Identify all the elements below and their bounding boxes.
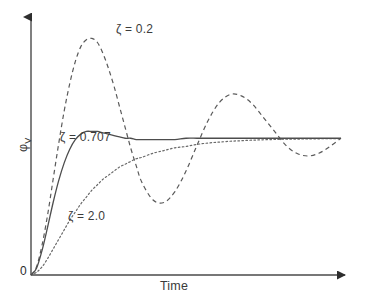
curve-zeta-2-0	[31, 139, 341, 275]
y-axis-label-symbol: φ	[16, 144, 30, 152]
y-axis-label-subscript: V	[23, 137, 33, 143]
origin-label: 0	[20, 264, 27, 278]
annotation-zeta-0-2: ζ = 0.2	[116, 22, 153, 36]
annotation-zeta-0-707: ζ = 0.707	[60, 130, 111, 144]
x-axis-label: Time	[160, 279, 188, 293]
curve-zeta-0-2	[31, 38, 341, 275]
annotation-zeta-2-0: ζ = 2.0	[68, 209, 105, 223]
chart-canvas	[0, 0, 366, 304]
chart-figure: ζ = 0.2 ζ = 0.707 ζ = 2.0 Time 0 φV	[0, 0, 366, 304]
y-axis-label: φV	[16, 137, 33, 152]
curve-zeta-0-707	[31, 131, 341, 275]
